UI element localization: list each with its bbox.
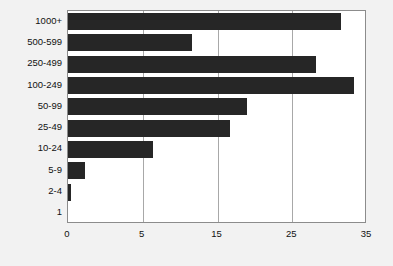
y-axis-label: 100-249 xyxy=(0,80,62,90)
bar-row xyxy=(68,141,365,158)
bar[interactable] xyxy=(68,34,192,51)
y-axis-category-labels: 1000+500-599250-499100-24950-9925-4910-2… xyxy=(0,10,62,223)
bar-row xyxy=(68,98,365,115)
y-axis-label: 2-4 xyxy=(0,186,62,196)
bar[interactable] xyxy=(68,120,230,137)
bar-row xyxy=(68,13,365,30)
bar-row xyxy=(68,120,365,137)
y-axis-label: 1 xyxy=(0,207,62,217)
bar-row xyxy=(68,205,365,222)
bar-chart-figure: 1000+500-599250-499100-24950-9925-4910-2… xyxy=(0,0,393,266)
bar[interactable] xyxy=(68,141,153,158)
y-axis-label: 5-9 xyxy=(0,165,62,175)
x-axis-label: 5 xyxy=(139,228,144,240)
bar-row xyxy=(68,34,365,51)
bar[interactable] xyxy=(68,13,341,30)
plot-area xyxy=(67,10,366,223)
x-axis-label: 0 xyxy=(64,228,69,240)
x-axis-label: 35 xyxy=(361,228,372,240)
bar-row xyxy=(68,56,365,73)
y-axis-label: 25-49 xyxy=(0,122,62,132)
bar-row xyxy=(68,184,365,201)
x-axis-tick-labels: 05152535 xyxy=(0,228,393,244)
y-axis-label: 50-99 xyxy=(0,101,62,111)
y-axis-label: 10-24 xyxy=(0,143,62,153)
x-axis-label: 15 xyxy=(211,228,222,240)
bar[interactable] xyxy=(68,98,247,115)
bar-row xyxy=(68,162,365,179)
bar[interactable] xyxy=(68,56,316,73)
y-axis-label: 250-499 xyxy=(0,58,62,68)
bar-row xyxy=(68,77,365,94)
bar[interactable] xyxy=(68,184,71,201)
bar[interactable] xyxy=(68,77,354,94)
bar[interactable] xyxy=(68,162,85,179)
y-axis-label: 500-599 xyxy=(0,37,62,47)
y-axis-label: 1000+ xyxy=(0,16,62,26)
x-axis-label: 25 xyxy=(286,228,297,240)
bars-layer xyxy=(68,11,365,222)
